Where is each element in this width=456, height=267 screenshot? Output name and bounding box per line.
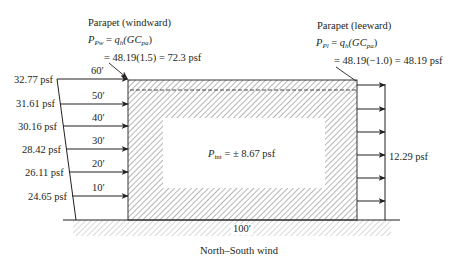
windward-pressure-20: 26.11 psf <box>25 168 64 179</box>
parapet-windward-title: Parapet (windward) <box>88 18 171 29</box>
height-label-30: 30′ <box>92 136 105 147</box>
windward-pressure-50: 31.61 psf <box>16 99 55 110</box>
diagram-caption: North–South wind <box>200 246 278 257</box>
height-label-60: 60′ <box>91 66 104 77</box>
windward-pressure-60: 32.77 psf <box>14 75 53 86</box>
height-label-50: 50′ <box>92 91 105 102</box>
formula-subscript: Pl <box>322 42 328 50</box>
formula-close: ) <box>374 37 378 48</box>
interior-pressure-label: Pint = ± 8.67 psf <box>208 149 275 160</box>
parapet-windward-calc: = 48.19(1.5) = 72.3 psf <box>104 53 201 64</box>
formula-subscript: Pw <box>94 39 103 47</box>
parapet-windward-formula: PPw = qh(GCpa) <box>88 35 152 46</box>
leeward-arrows <box>357 85 385 201</box>
windward-pressure-10: 24.65 psf <box>28 192 67 203</box>
interior-pressure-subscript: int <box>214 153 221 161</box>
height-label-10: 10′ <box>92 183 105 194</box>
formula-close: ) <box>148 34 152 45</box>
windward-pressure-30: 28.42 psf <box>22 145 61 156</box>
interior-pressure-value: = ± 8.67 psf <box>222 148 275 159</box>
height-label-20: 20′ <box>92 159 105 170</box>
parapet-leeward-formula: PPl = qh(GCpa) <box>316 38 377 49</box>
parapet-leeward-title: Parapet (leeward) <box>317 21 391 32</box>
leeward-pressure-label: 12.29 psf <box>389 152 428 163</box>
leeward-parapet-leader <box>336 67 356 81</box>
formula-gc-sub: pa <box>367 42 374 50</box>
parapet-leeward-calc: = 48.19(−1.0) = 48.19 psf <box>334 56 442 67</box>
formula-gc: (GC <box>123 34 141 45</box>
height-label-40: 40′ <box>92 113 105 124</box>
formula-gc: (GC <box>349 37 367 48</box>
wind-load-diagram <box>0 0 456 267</box>
windward-pressure-40: 30.16 psf <box>18 122 57 133</box>
building-width-label: 100′ <box>231 224 253 235</box>
windward-parapet-leader <box>109 63 127 78</box>
